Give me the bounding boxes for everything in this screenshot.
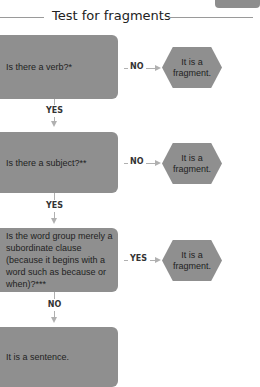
- result-hexagon-fragment: It is a fragment.: [162, 240, 222, 281]
- result-box-sentence: It is a sentence.: [0, 327, 118, 387]
- down-label: NO: [44, 300, 65, 309]
- final-text: It is a sentence.: [6, 351, 69, 363]
- branch-arrow-yes: YES: [124, 254, 162, 266]
- arrow-down-icon: [51, 121, 57, 127]
- branch-label: YES: [130, 254, 147, 263]
- question-box-subject: Is there a subject?**: [0, 132, 118, 193]
- arrow-right-icon: [155, 257, 161, 263]
- down-arrow-yes: YES: [44, 99, 64, 129]
- result-hexagon-fragment: It is a fragment.: [162, 47, 222, 88]
- down-label: YES: [44, 201, 65, 210]
- result-hexagon-fragment: It is a fragment.: [162, 143, 222, 184]
- down-arrow-yes: YES: [44, 193, 64, 226]
- arrow-down-icon: [51, 218, 57, 224]
- arrow-down-icon: [51, 317, 57, 323]
- branch-label: NO: [130, 62, 144, 71]
- down-label: YES: [44, 106, 65, 115]
- flowchart-header: Test for fragments: [0, 8, 253, 26]
- result-text: It is a fragment.: [162, 153, 222, 175]
- question-text: Is there a subject?**: [6, 157, 87, 169]
- title-rule-right: [168, 17, 253, 18]
- question-text: Is there a verb?*: [6, 61, 72, 73]
- question-box-subordinate-clause: Is the word group merely a subordinate c…: [0, 228, 118, 292]
- branch-arrow-no: NO: [124, 157, 162, 169]
- branch-label: NO: [130, 157, 144, 166]
- question-text: Is the word group merely a subordinate c…: [6, 230, 114, 290]
- arrow-right-icon: [155, 160, 161, 166]
- page-tab-decoration: [215, 0, 260, 8]
- result-text: It is a fragment.: [162, 250, 222, 272]
- question-box-verb: Is there a verb?*: [0, 35, 118, 99]
- flowchart-title: Test for fragments: [52, 8, 171, 23]
- title-rule-left: [0, 17, 44, 18]
- branch-arrow-no: NO: [124, 62, 162, 74]
- down-arrow-no: NO: [44, 292, 64, 325]
- result-text: It is a fragment.: [162, 57, 222, 79]
- arrow-right-icon: [155, 65, 161, 71]
